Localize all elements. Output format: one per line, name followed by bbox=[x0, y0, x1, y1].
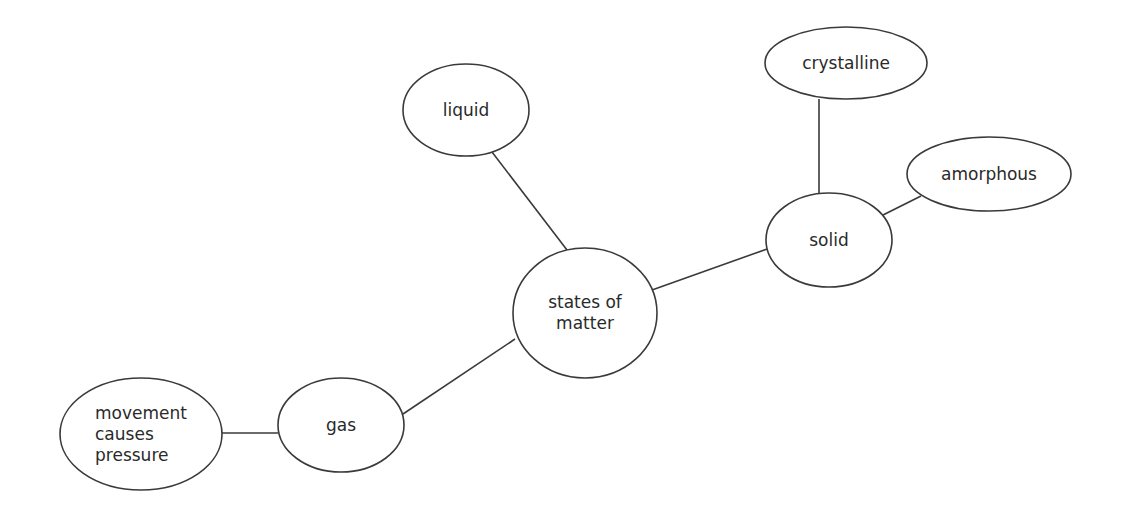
node-amorphous-label: amorphous bbox=[941, 164, 1037, 185]
node-label-line: crystalline bbox=[802, 53, 890, 74]
node-label-line: states of bbox=[548, 292, 622, 313]
node-pressure-label: movementcausespressure bbox=[95, 403, 187, 466]
node-label-line: matter bbox=[548, 313, 622, 334]
node-label-line: solid bbox=[809, 230, 849, 251]
node-crystalline-label: crystalline bbox=[802, 53, 890, 74]
node-label-line: amorphous bbox=[941, 164, 1037, 185]
edge-solid-amorphous bbox=[883, 196, 921, 215]
node-gas-label: gas bbox=[326, 415, 356, 436]
edge-center-liquid bbox=[492, 152, 567, 250]
node-label-line: causes bbox=[95, 424, 187, 445]
node-solid-label: solid bbox=[809, 230, 849, 251]
node-label-line: liquid bbox=[443, 100, 490, 121]
node-label-line: gas bbox=[326, 415, 356, 436]
edge-center-gas bbox=[403, 339, 515, 414]
edge-center-solid bbox=[652, 249, 767, 290]
node-label-line: movement bbox=[95, 403, 187, 424]
node-center-label: states ofmatter bbox=[548, 292, 622, 334]
node-liquid-label: liquid bbox=[443, 100, 490, 121]
node-label-line: pressure bbox=[95, 445, 187, 466]
